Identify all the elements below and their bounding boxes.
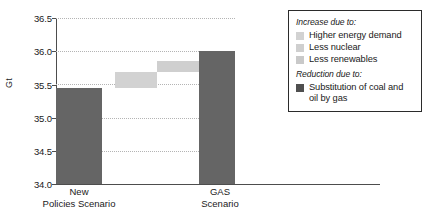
legend-swatch-icon — [296, 56, 304, 64]
x-label-new-policies-scenario: New Policies Scenario — [0, 186, 158, 209]
legend-item-label-line1: Substitution of coal and — [309, 82, 403, 92]
y-tick-label: 34.5 — [20, 147, 52, 156]
legend-header-reduction: Reduction due to: — [296, 69, 416, 80]
legend-item-label-line2: oil by gas — [309, 93, 347, 103]
y-tick-label: 36.0 — [20, 47, 52, 56]
bar-gas-scenario — [199, 98, 235, 184]
chart-legend: Increase due to: Higher energy demand Le… — [288, 10, 422, 112]
y-tick-label: 35.0 — [20, 114, 52, 123]
plot-area — [56, 18, 235, 184]
legend-header-increase: Increase due to: — [296, 17, 416, 28]
legend-item-label: Less renewables — [309, 54, 377, 65]
x-label-line2: Scenario — [201, 198, 239, 209]
waterfall-chart: Gt 36.5 36.0 35.5 35.0 34.5 34.0 — [0, 0, 280, 219]
y-axis-title: Gt — [4, 78, 14, 88]
y-tick-label: 36.5 — [20, 14, 52, 23]
legend-item-higher-energy-demand: Higher energy demand — [296, 30, 416, 41]
legend-swatch-icon — [296, 44, 304, 52]
bar-less-nuclear — [157, 61, 199, 72]
legend-item-less-renewables: Less renewables — [296, 54, 416, 65]
legend-swatch-icon — [296, 84, 304, 92]
bar-higher-energy-demand — [115, 72, 157, 87]
legend-item-substitution-of-coal-and-oil-by-gas: Substitution of coal and oil by gas — [296, 82, 416, 104]
x-label-line1: New — [69, 186, 88, 197]
x-label-line1: GAS — [210, 186, 230, 197]
y-tick-label: 35.5 — [20, 81, 52, 90]
legend-item-label: Substitution of coal and oil by gas — [309, 82, 403, 104]
legend-swatch-icon — [296, 32, 304, 40]
legend-item-label: Less nuclear — [309, 42, 361, 53]
x-label-gas-scenario: GAS Scenario — [165, 186, 275, 209]
x-label-line2: Policies Scenario — [43, 198, 116, 209]
bar-new-policies-scenario — [56, 88, 102, 184]
legend-item-less-nuclear: Less nuclear — [296, 42, 416, 53]
bar-substitution-of-coal-and-oil-by-gas — [199, 51, 235, 98]
gridline — [56, 18, 235, 19]
chart-root: Gt 36.5 36.0 35.5 35.0 34.5 34.0 — [0, 0, 432, 219]
legend-item-label: Higher energy demand — [309, 30, 402, 41]
